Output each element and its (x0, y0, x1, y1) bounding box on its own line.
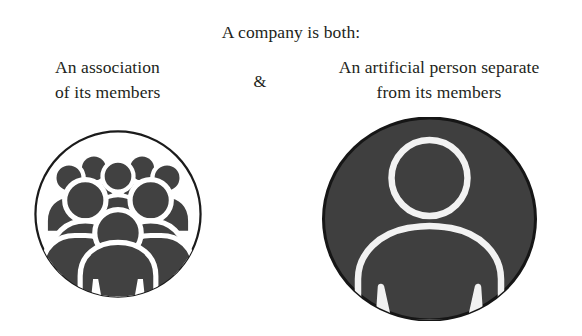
left-caption-line-1: An association (55, 55, 240, 80)
single-person-icon (322, 117, 537, 321)
left-caption-line-2: of its members (55, 80, 240, 105)
company-duality-diagram: A company is both: An association of its… (0, 0, 582, 336)
right-branch-caption: An artificial person separate from its m… (296, 55, 582, 105)
conjunction-ampersand: & (240, 70, 280, 93)
right-caption-line-1: An artificial person separate (296, 55, 582, 80)
group-icon-svg (32, 128, 204, 300)
right-caption-line-2: from its members (296, 80, 582, 105)
group-of-people-icon (32, 128, 204, 300)
left-branch-caption: An association of its members (55, 55, 240, 105)
person-icon-svg (322, 117, 537, 321)
diagram-headline: A company is both: (0, 22, 582, 44)
